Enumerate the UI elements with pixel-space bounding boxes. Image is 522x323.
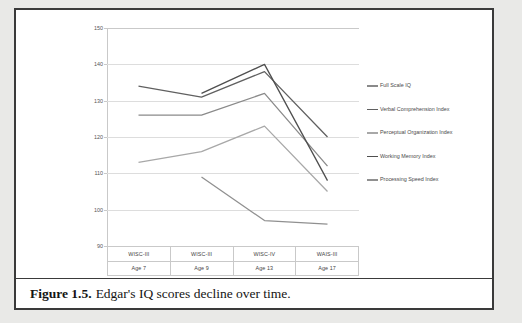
x-axis-age-label: Age 13 xyxy=(234,262,296,276)
series-line xyxy=(202,64,328,180)
x-axis-category-cell: WISC-IVAge 13 xyxy=(234,247,297,275)
legend-item: Perceptual Organization Index xyxy=(367,129,465,137)
legend-label: Perceptual Organization Index xyxy=(380,129,453,137)
x-axis-test-name: WAIS-III xyxy=(296,247,358,262)
legend-line-swatch xyxy=(367,109,378,111)
figure-sheet: 15014013012011010090 WISC-IIIAge 7WISC-I… xyxy=(14,8,494,310)
x-axis-category-cell: WISC-IIIAge 9 xyxy=(171,247,234,275)
legend-item: Full Scale IQ xyxy=(367,82,465,90)
legend-item: Working Memory Index xyxy=(367,153,465,161)
chart-legend: Full Scale IQVerbal Comprehension IndexP… xyxy=(367,82,465,200)
x-axis-test-name: WISC-III xyxy=(108,247,170,262)
y-axis-tick-label: 110 xyxy=(94,170,103,176)
legend-line-swatch xyxy=(367,132,378,134)
figure-caption: Figure 1.5. Edgar's IQ scores decline ov… xyxy=(16,279,492,308)
legend-label: Verbal Comprehension Index xyxy=(380,106,450,114)
x-axis-age-label: Age 9 xyxy=(171,262,233,276)
y-axis-tick-label: 140 xyxy=(94,61,103,67)
x-axis-category-cell: WAIS-IIIAge 17 xyxy=(296,247,358,275)
caption-label: Figure 1.5. xyxy=(30,286,92,302)
x-axis-age-label: Age 7 xyxy=(108,262,170,276)
plot-area: 15014013012011010090 xyxy=(107,28,359,246)
x-axis-test-name: WISC-IV xyxy=(234,247,296,262)
x-axis-age-label: Age 17 xyxy=(296,262,358,276)
x-axis-category-cell: WISC-IIIAge 7 xyxy=(108,247,171,275)
iq-scores-line-chart: 15014013012011010090 WISC-IIIAge 7WISC-I… xyxy=(79,24,419,269)
legend-item: Verbal Comprehension Index xyxy=(367,106,465,114)
legend-label: Working Memory Index xyxy=(380,153,435,161)
y-axis-tick-label: 150 xyxy=(94,25,103,31)
figure-area: 15014013012011010090 WISC-IIIAge 7WISC-I… xyxy=(16,10,492,278)
series-lines xyxy=(107,28,359,246)
series-line xyxy=(139,126,328,191)
x-axis-test-name: WISC-III xyxy=(171,247,233,262)
y-axis-tick-label: 120 xyxy=(94,134,103,140)
y-axis-tick-label: 90 xyxy=(97,243,103,249)
y-axis-tick-label: 130 xyxy=(94,98,103,104)
series-line xyxy=(139,93,328,166)
legend-line-swatch xyxy=(367,156,378,158)
caption-text: Edgar's IQ scores decline over time. xyxy=(96,286,291,302)
scanned-page-background: 15014013012011010090 WISC-IIIAge 7WISC-I… xyxy=(0,0,522,323)
legend-item: Processing Speed Index xyxy=(367,176,465,184)
legend-label: Full Scale IQ xyxy=(380,82,411,90)
series-line xyxy=(202,177,328,224)
y-axis-tick-label: 100 xyxy=(94,207,103,213)
legend-line-swatch xyxy=(367,179,378,181)
legend-label: Processing Speed Index xyxy=(380,176,438,184)
legend-line-swatch xyxy=(367,85,378,87)
x-axis-category-table: WISC-IIIAge 7WISC-IIIAge 9WISC-IVAge 13W… xyxy=(107,246,359,276)
